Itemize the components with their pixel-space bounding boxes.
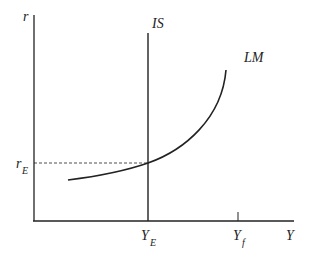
lm-curve <box>68 70 226 180</box>
y-axis-label: r <box>23 9 29 24</box>
lm-label: LM <box>243 50 265 65</box>
r-equilibrium-subscript: E <box>21 165 28 176</box>
y-full-employment-subscript: f <box>242 237 246 248</box>
is-label: IS <box>151 16 164 31</box>
islm-diagram: r IS LM r E Y E Y f Y <box>0 0 311 254</box>
y-equilibrium-subscript: E <box>149 237 156 248</box>
x-axis-label: Y <box>286 228 296 243</box>
